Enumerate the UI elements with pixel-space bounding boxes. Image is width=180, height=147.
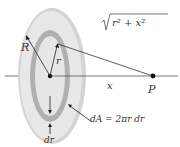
label-P: P	[147, 83, 156, 96]
label-R: R	[20, 41, 29, 54]
disk-field-diagram: R r r² + x² x P dr dA = 2πr dr	[0, 0, 180, 147]
point-P	[151, 74, 156, 79]
label-dA: dA = 2πr dr	[90, 114, 145, 124]
label-x: x	[107, 80, 113, 91]
label-sqrt-expr: r² + x²	[112, 17, 145, 28]
label-dr: dr	[44, 135, 55, 145]
